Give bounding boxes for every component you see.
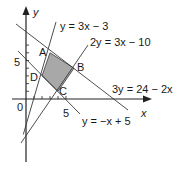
x-axis-arrow-icon <box>143 96 152 103</box>
x-tick-label-5: 5 <box>63 107 69 119</box>
y-axis-label: y <box>32 6 40 18</box>
point-d-label: D <box>30 71 38 83</box>
x-axis-label: x <box>140 107 147 119</box>
y-tick-label-5: 5 <box>14 56 20 68</box>
point-a-label: A <box>39 46 47 58</box>
equation-label-2y-3x-minus-10: 2y = 3x − 10 <box>90 36 151 48</box>
point-b-label: B <box>77 61 84 73</box>
y-axis-arrow-icon <box>23 6 30 15</box>
origin-label: 0 <box>17 101 23 113</box>
point-c-label: C <box>59 85 67 97</box>
equation-label-y-neg-x-plus-5: y = −x + 5 <box>82 115 131 127</box>
equation-label-y-3x-minus-3: y = 3x − 3 <box>60 20 108 32</box>
linear-programming-diagram: y x 0 5 5 A B C D y = 3x − 3 2y = 3x − 1… <box>0 0 187 169</box>
equation-label-3y-24-minus-2x: 3y = 24 − 2x <box>112 83 173 95</box>
